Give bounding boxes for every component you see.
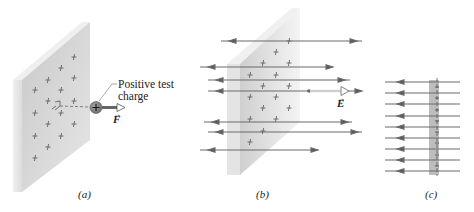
panel-a (13, 22, 125, 192)
field-vector-label: → E (337, 98, 344, 109)
panel-label-a: (a) (78, 189, 91, 200)
field-lines-c (385, 80, 460, 173)
panel-label-c: (c) (425, 189, 437, 200)
field-vector-shaft (310, 90, 342, 92)
callout-leader-line (99, 84, 117, 101)
panel-b (200, 8, 362, 175)
force-vector-label: → F (113, 114, 120, 125)
sheet-side-face (13, 80, 22, 192)
callout-line-2: charge (118, 90, 174, 102)
panel-c (385, 78, 460, 176)
sheet-side-face (227, 64, 240, 175)
vector-arrow-icon: → (113, 111, 121, 119)
vector-arrow-icon: → (337, 95, 345, 103)
callout-line-1: Positive test (118, 78, 174, 90)
test-charge-callout: Positive test charge (118, 78, 174, 102)
force-arrow-shaft (102, 106, 117, 109)
electric-field-sheet-figure (0, 0, 474, 212)
panel-label-b: (b) (256, 189, 269, 200)
